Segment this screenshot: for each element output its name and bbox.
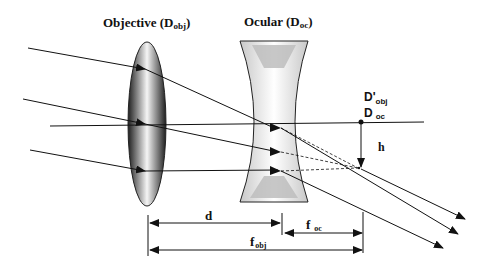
f-oc-label: foc bbox=[306, 217, 322, 233]
optical-axis bbox=[50, 122, 424, 126]
objective-label: Objective (Dobj) bbox=[103, 15, 190, 31]
d-label: d bbox=[205, 208, 213, 223]
ocular-label: Ocular (Doc) bbox=[244, 14, 313, 30]
d-oc-label: Doc bbox=[364, 106, 386, 121]
incoming-rays bbox=[23, 48, 145, 171]
h-label: h bbox=[378, 140, 385, 154]
telescope-optics-diagram: Objective (Dobj) Ocular (Doc) D'obj Doc … bbox=[0, 0, 487, 277]
focal-point bbox=[358, 167, 360, 169]
d-obj-prime-label: D'obj bbox=[364, 90, 388, 106]
f-obj-label: fobj bbox=[250, 234, 267, 250]
ocular-lens bbox=[240, 41, 308, 202]
